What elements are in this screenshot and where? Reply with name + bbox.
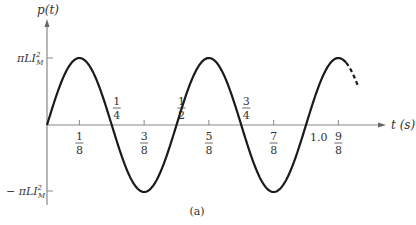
numerator: 1	[113, 95, 120, 108]
denominator: 8	[270, 144, 277, 157]
zero-crossing-label: 34	[242, 95, 250, 122]
neg-level-label: − πLI2M	[6, 184, 46, 200]
denominator: 4	[243, 109, 250, 122]
numerator: 9	[335, 130, 342, 143]
numerator: 3	[141, 130, 148, 143]
numerator: 1	[76, 130, 83, 143]
denominator: 8	[205, 144, 212, 157]
y-axis-label: p(t)	[37, 3, 59, 17]
denominator: 4	[113, 109, 120, 122]
power-curve-continuation-dashed	[346, 63, 358, 86]
decimal-tick-label: 1.0	[310, 131, 328, 144]
x-tick-label: 78	[270, 130, 278, 157]
zero-crossing-label: 14	[113, 95, 121, 122]
denominator: 8	[335, 144, 342, 157]
denominator: 8	[76, 144, 83, 157]
denominator: 8	[141, 144, 148, 157]
x-tick-label: 98	[334, 130, 342, 157]
x-tick-label: 38	[140, 130, 148, 157]
x-axis-arrowhead-icon	[378, 123, 386, 128]
pos-level-label: πLI2M	[16, 51, 44, 67]
numerator: 5	[205, 130, 212, 143]
numerator: 3	[243, 95, 250, 108]
figure-caption: (a)	[189, 205, 204, 218]
x-tick-label: 18	[75, 130, 83, 157]
numerator: 7	[270, 130, 277, 143]
power-waveform-figure: p(t) t (s) πLI2M − πLI2M 1838587898 1412…	[0, 0, 416, 225]
x-tick-label: 58	[205, 130, 213, 157]
x-axis-label: t (s)	[391, 118, 415, 132]
y-axis-arrowhead-icon	[45, 19, 50, 27]
